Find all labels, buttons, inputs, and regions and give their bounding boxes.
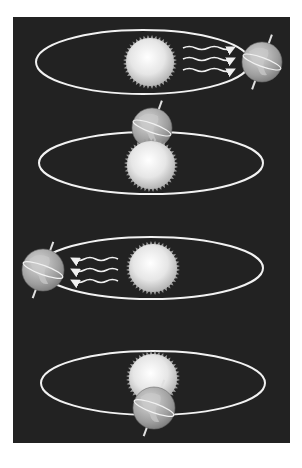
orbit-diagram <box>0 0 302 468</box>
